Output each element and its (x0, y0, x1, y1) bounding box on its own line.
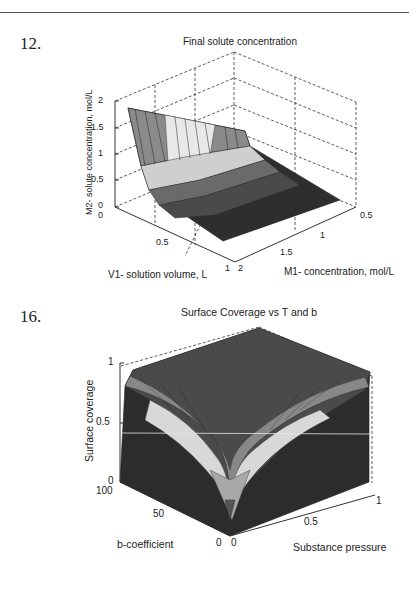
figure-16-plot (0, 0, 409, 589)
fig16-ytick-0-5: 0.5 (304, 516, 318, 527)
fig16-xtick-50: 50 (153, 508, 164, 519)
fig16-ztick-0-5: 0.5 (96, 416, 110, 427)
fig16-ytick-1: 1 (376, 495, 382, 506)
fig16-zlabel: Surface coverage (83, 380, 95, 462)
fig16-xlabel: b-coefficient (117, 538, 173, 550)
fig16-xtick-0: 0 (216, 537, 222, 548)
fig16-ytick-0: 0 (231, 537, 237, 548)
fig16-ylabel: Substance pressure (293, 541, 386, 553)
fig16-xtick-100: 100 (96, 485, 113, 496)
fig16-ztick-1: 1 (108, 356, 114, 367)
